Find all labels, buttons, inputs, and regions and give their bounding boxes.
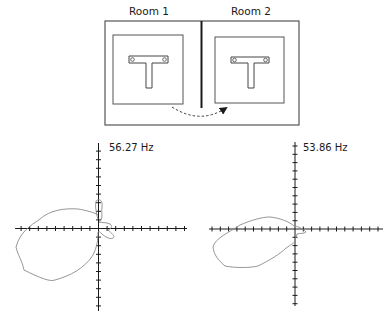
frequency-label: 56.27 Hz — [109, 142, 154, 153]
t-fixture-room-1 — [129, 56, 168, 88]
directivity-curve-main — [16, 209, 98, 281]
frequency-label: 53.86 Hz — [303, 142, 348, 153]
room-1-label: Room 1 — [129, 5, 169, 17]
polar-plot-right: 53.86 Hz — [209, 142, 383, 306]
directivity-lobe-right — [98, 222, 114, 239]
t-fixture-room-2 — [231, 57, 269, 88]
polar-plot-left: 56.27 Hz — [15, 142, 187, 311]
room-diagram: Room 1 Room 2 — [105, 5, 299, 125]
diagram-canvas: Room 1 Room 2 56.27 Hz — [0, 0, 391, 321]
directivity-curve-main — [213, 217, 295, 268]
move-arrow-icon — [172, 107, 226, 116]
room-2-label: Room 2 — [231, 5, 271, 17]
directivity-lobe-right — [295, 226, 306, 240]
